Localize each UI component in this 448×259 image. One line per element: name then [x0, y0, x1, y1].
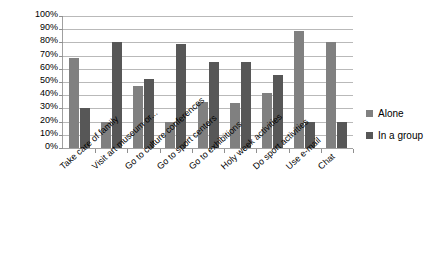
x-axis-tick-mark	[127, 149, 128, 153]
bar-in-a-group	[176, 44, 186, 148]
y-axis-tick-label: 20%	[14, 116, 58, 125]
y-axis-tick-mark	[59, 108, 63, 109]
y-axis-label-group: 100%90%80%70%60%50%40%30%20%10%0%	[14, 11, 58, 148]
legend-label: Alone	[378, 108, 404, 119]
y-axis-tick-mark	[59, 16, 63, 17]
legend-swatch-icon	[366, 110, 373, 117]
x-axis-tick-mark	[256, 149, 257, 153]
y-axis-tick-label: 80%	[14, 36, 58, 45]
y-axis-tick-mark	[59, 42, 63, 43]
y-axis-tick-label: 30%	[14, 102, 58, 111]
y-axis-tick-label: 70%	[14, 50, 58, 59]
bar-chart: 100%90%80%70%60%50%40%30%20%10%0% Take c…	[0, 0, 448, 259]
legend-item[interactable]: In a group	[366, 130, 446, 141]
legend-label: In a group	[378, 130, 423, 141]
y-axis-tick-label: 40%	[14, 89, 58, 98]
bar-in-a-group	[112, 42, 122, 148]
x-axis-tick-mark	[353, 149, 354, 153]
y-axis-tick-mark	[59, 95, 63, 96]
y-axis-tick-label: 90%	[14, 23, 58, 32]
x-axis-tick-mark	[224, 149, 225, 153]
bar-alone	[69, 58, 79, 148]
y-axis-tick-mark	[59, 56, 63, 57]
legend-item[interactable]: Alone	[366, 108, 446, 119]
legend-swatch-icon	[366, 132, 373, 139]
x-axis-category-label: Chat	[316, 151, 337, 171]
y-axis-tick-mark	[59, 135, 63, 136]
y-axis-tick-mark	[59, 122, 63, 123]
x-axis-tick-mark	[321, 149, 322, 153]
bar-alone	[326, 42, 336, 148]
y-axis-tick-label: 100%	[14, 10, 58, 19]
y-axis-tick-mark	[59, 148, 63, 149]
chart-legend: AloneIn a group	[366, 108, 446, 152]
x-axis-tick-mark	[160, 149, 161, 153]
y-axis-tick-label: 0%	[14, 142, 58, 151]
y-axis-tick-mark	[59, 82, 63, 83]
bar-in-a-group	[337, 122, 347, 148]
y-axis-tick-label: 50%	[14, 76, 58, 85]
y-axis-tick-label: 10%	[14, 129, 58, 138]
x-axis-tick-mark	[192, 149, 193, 153]
x-axis-tick-mark	[289, 149, 290, 153]
x-axis-tick-mark	[95, 149, 96, 153]
y-axis-tick-mark	[59, 69, 63, 70]
y-axis-tick-label: 60%	[14, 63, 58, 72]
y-axis-tick-mark	[59, 29, 63, 30]
